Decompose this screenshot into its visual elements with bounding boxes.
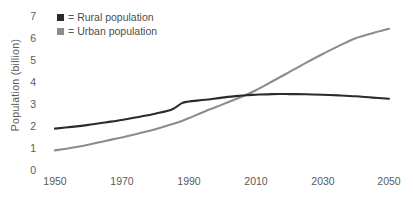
plot-area — [0, 0, 413, 201]
rural-population-line — [55, 94, 389, 129]
population-line-chart: Population (billion) 7 6 5 4 3 2 1 0 195… — [0, 0, 413, 201]
urban-population-line — [55, 29, 389, 151]
